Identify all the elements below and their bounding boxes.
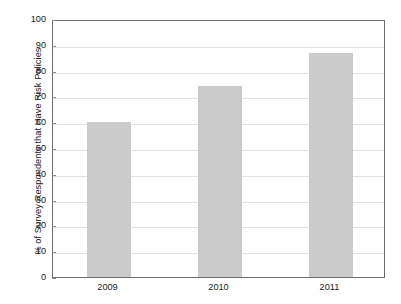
gridline [53,47,384,48]
y-tick-label: 80 [16,67,46,76]
y-tick-label: 10 [16,248,46,257]
bar [198,86,242,277]
bar [87,122,131,277]
y-tick-label: 0 [16,273,46,282]
y-tick-label: 30 [16,196,46,205]
y-tick-mark [52,226,56,227]
y-tick-mark [52,97,56,98]
x-tick-label: 2009 [97,282,117,292]
bar-chart: % of Survey Respondents that Have Risk P… [0,0,401,304]
y-tick-label: 70 [16,93,46,102]
y-tick-mark [52,46,56,47]
x-axis-tick-labels: 200920102011 [52,282,385,298]
x-tick-label: 2011 [320,282,340,292]
y-tick-label: 20 [16,222,46,231]
y-tick-label: 50 [16,144,46,153]
x-tick-label: 2010 [208,282,228,292]
y-tick-mark [52,123,56,124]
y-tick-mark [52,278,56,279]
y-tick-mark [52,20,56,21]
y-tick-label: 90 [16,41,46,50]
y-axis-tick-labels: 0102030405060708090100 [16,20,46,278]
bar [309,53,353,277]
y-tick-label: 60 [16,119,46,128]
plot-area [52,20,385,278]
y-tick-mark [52,175,56,176]
y-tick-label: 40 [16,170,46,179]
y-tick-mark [52,72,56,73]
y-tick-mark [52,149,56,150]
y-tick-label: 100 [16,15,46,24]
y-tick-mark [52,252,56,253]
y-tick-mark [52,201,56,202]
